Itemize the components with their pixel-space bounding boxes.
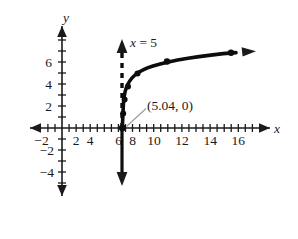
- asymptote-top-arrow-icon: [117, 39, 128, 53]
- x-axis-right-arrow-icon: [259, 123, 270, 133]
- annotation-leader-line: [127, 109, 147, 127]
- asymptote-equation-label: x = 5: [129, 35, 157, 50]
- data-point-5: [164, 58, 170, 64]
- graph-figure: −2 2 4 6 8 10 12 14 16 x: [0, 0, 298, 239]
- x-tick-label-2: 2: [73, 133, 80, 148]
- y-axis-group: 6 4 2 −2 −4 y: [40, 10, 69, 196]
- curve-end-arrow-icon: [242, 47, 256, 56]
- y-axis-bottom-arrow-icon: [57, 185, 67, 196]
- y-tick-label--4: −4: [40, 165, 55, 180]
- y-tick-label--2: −2: [40, 143, 54, 158]
- curve-group: [119, 47, 256, 131]
- x-axis-label: x: [273, 121, 280, 136]
- intercept-annotation-group: (5.04, 0): [127, 98, 194, 127]
- y-axis-top-arrow-icon: [57, 26, 67, 37]
- x-axis-group: −2 2 4 6 8 10 12 14 16 x: [30, 121, 280, 148]
- y-axis-label: y: [61, 10, 69, 25]
- data-point-2: [122, 97, 128, 103]
- x-tick-label-8: 8: [129, 133, 136, 148]
- logarithmic-curve-path: [122, 53, 236, 128]
- y-tick-label-2: 2: [45, 99, 52, 114]
- y-tick-label-6: 6: [45, 55, 52, 70]
- x-tick-label-12: 12: [175, 133, 189, 148]
- x-tick-label-16: 16: [232, 133, 246, 148]
- data-point-6: [228, 50, 234, 56]
- asymptote-bottom-arrow-icon: [117, 172, 128, 186]
- asymptote-eq-value: = 5: [136, 35, 157, 50]
- x-tick-label-10: 10: [147, 133, 161, 148]
- asymptote-eq-variable: x: [129, 35, 136, 50]
- x-tick-label-14: 14: [203, 133, 217, 148]
- x-axis-left-arrow-icon: [30, 123, 41, 133]
- coordinate-plane-svg: −2 2 4 6 8 10 12 14 16 x: [0, 0, 298, 239]
- data-point-x-intercept: [119, 125, 126, 132]
- data-point-4: [135, 71, 141, 77]
- x-tick-label-4: 4: [87, 133, 94, 148]
- data-point-3: [125, 84, 131, 90]
- y-tick-label-4: 4: [45, 77, 52, 92]
- data-point-1: [120, 111, 126, 117]
- intercept-annotation-label: (5.04, 0): [147, 98, 193, 113]
